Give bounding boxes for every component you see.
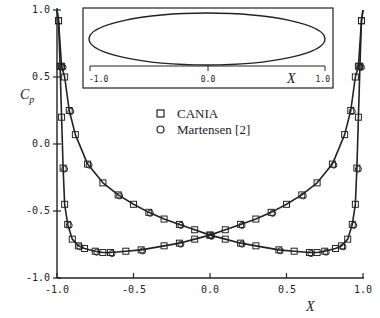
inset-tick-label: 1.0 [316,75,331,84]
inset-tick-label: 0.0 [201,75,216,84]
y-tick-label: -0.5 [26,205,50,216]
square-marker-icon [157,110,164,117]
x-tick-labels: -1.0 -0.5 0.0 0.5 1.0 [45,284,372,295]
x-tick-label: 0.0 [201,284,219,295]
inset-airfoil: -1.0 0.0 1.0 X [83,8,333,88]
y-tick-label: -1.0 [26,272,50,283]
x-axis-label: X [305,299,315,314]
x-tick-label: -1.0 [45,284,69,295]
circle-marker-icon [157,126,164,133]
x-tick-label: 1.0 [354,284,372,295]
legend-label-cania: CANIA [177,106,219,121]
x-tick-label: -0.5 [122,284,146,295]
x-tick-label: 0.5 [278,284,296,295]
inset-x-label: X [286,71,296,86]
y-axis-label: Cp [20,87,34,105]
legend: CANIA Martensen [2] [157,106,250,137]
legend-label-martensen: Martensen [2] [177,122,250,137]
y-tick-label: 0.5 [32,71,50,82]
y-tick-label: 1.0 [32,4,50,15]
cp-distribution-chart: 1.0 0.5 0.0 -0.5 -1.0 -1.0 -0.5 0.0 0.5 … [0,0,380,318]
inset-tick-label: -1.0 [89,75,108,84]
y-tick-label: 0.0 [32,138,50,149]
y-tick-labels: 1.0 0.5 0.0 -0.5 -1.0 [26,4,50,283]
